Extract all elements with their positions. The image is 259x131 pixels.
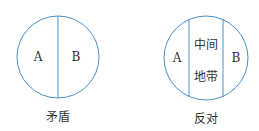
contrary-caption: 反对 bbox=[194, 109, 218, 126]
diagram-canvas bbox=[0, 0, 259, 131]
contrary-region-a: A bbox=[173, 51, 182, 65]
contrary-region-b: B bbox=[232, 51, 241, 65]
contradiction-caption: 矛盾 bbox=[46, 107, 70, 124]
contrary-middle-line2: 地带 bbox=[194, 67, 218, 84]
contrary-middle-line1: 中间 bbox=[194, 35, 218, 52]
contradiction-diagram bbox=[17, 16, 99, 98]
contradiction-region-a: A bbox=[34, 50, 43, 64]
contradiction-region-b: B bbox=[72, 50, 81, 64]
